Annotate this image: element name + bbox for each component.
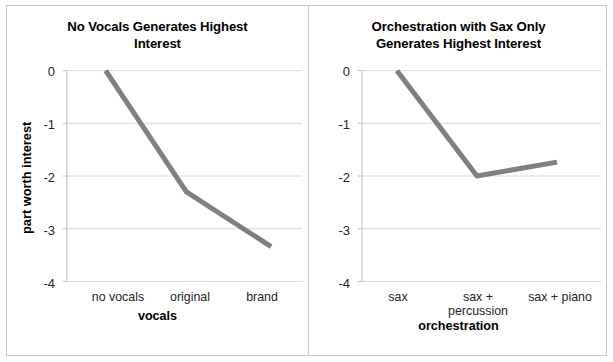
x-tick-label-brand: brand — [227, 290, 297, 304]
y-axis-title-vocals: part worth interest — [19, 122, 34, 234]
y-tick-label-minus4: -4 — [29, 277, 55, 290]
x-axis-title-vocals: vocals — [7, 309, 308, 323]
chart-panel-vocals: No Vocals Generates Highest Interest — [7, 6, 309, 355]
y-tick-label-minus3: -3 — [324, 224, 350, 237]
data-line-vocals — [106, 71, 271, 247]
x-tick-label-original: original — [153, 290, 227, 304]
x-tick-label-sax-percussion-line1: sax + — [443, 290, 513, 304]
x-tick-label-sax: sax — [367, 290, 429, 304]
y-tick-label-minus2: -2 — [324, 171, 350, 184]
y-tick-label-0: 0 — [324, 65, 350, 78]
x-tick-label-no-vocals: no vocals — [78, 290, 158, 304]
chart-panel-orchestration: Orchestration with Sax Only Generates Hi… — [309, 6, 608, 355]
y-tick-label-minus4: -4 — [324, 277, 350, 290]
figure-root: No Vocals Generates Highest Interest — [0, 0, 613, 362]
x-tick-label-sax-percussion-line2: percussion — [443, 304, 513, 318]
y-tick-label-minus1: -1 — [324, 118, 350, 131]
x-axis-title-orchestration: orchestration — [309, 319, 608, 333]
x-tick-label-sax-percussion: sax + percussion — [443, 290, 513, 318]
x-tick-label-sax-piano: sax + piano — [517, 290, 603, 304]
y-tick-label-0: 0 — [29, 65, 55, 78]
figure-frame: No Vocals Generates Highest Interest — [6, 5, 607, 356]
